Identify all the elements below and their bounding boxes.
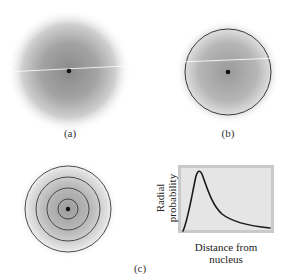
x-axis-label-line1: Distance from	[186, 241, 266, 253]
x-axis-label: Distance from nucleus	[186, 241, 266, 265]
nucleus-icon	[226, 70, 231, 75]
y-axis-label-line2: probability	[166, 158, 178, 238]
nucleus-icon	[67, 69, 72, 74]
orbital-figure	[0, 0, 293, 280]
radial-probability-plot	[178, 165, 274, 233]
panel-label-b: (b)	[213, 127, 243, 139]
panel-label-a: (a)	[55, 127, 85, 139]
y-axis-label: Radial probability	[154, 158, 178, 238]
y-axis-label-line1: Radial	[154, 158, 166, 238]
panel-a-cloud	[5, 9, 131, 133]
panel-label-c: (c)	[125, 262, 155, 274]
panel-c-shells	[18, 159, 118, 259]
x-axis-label-line2: nucleus	[186, 253, 266, 265]
nucleus-icon	[66, 207, 70, 211]
panel-b-cloud	[176, 20, 280, 124]
